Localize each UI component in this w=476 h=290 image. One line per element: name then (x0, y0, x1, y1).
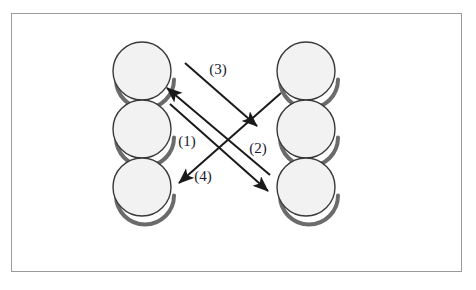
node-left-3[interactable] (113, 158, 174, 225)
node-right-2-circle[interactable] (277, 100, 335, 158)
arrow-group (167, 63, 281, 191)
node-group-right (277, 42, 338, 225)
node-right-1-circle[interactable] (277, 42, 335, 100)
node-group-left (113, 42, 174, 225)
arrow-1-label: (1) (178, 133, 196, 150)
node-left-3-circle[interactable] (113, 158, 171, 216)
node-right-3[interactable] (277, 158, 338, 225)
arrow-1-line[interactable] (167, 88, 270, 175)
node-right-3-circle[interactable] (277, 158, 335, 216)
diagram-svg: (3) (1) (2) (4) (0, 0, 476, 290)
node-left-2[interactable] (113, 100, 174, 167)
node-left-1[interactable] (113, 42, 174, 109)
node-right-1[interactable] (277, 42, 338, 109)
node-left-1-circle[interactable] (113, 42, 171, 100)
arrow-2-label: (2) (249, 140, 267, 157)
node-left-2-circle[interactable] (113, 100, 171, 158)
arrow-4-label: (4) (194, 168, 212, 185)
arrow-3-label: (3) (209, 61, 227, 78)
figure-canvas: (3) (1) (2) (4) (0, 0, 476, 290)
node-right-2[interactable] (277, 100, 338, 167)
